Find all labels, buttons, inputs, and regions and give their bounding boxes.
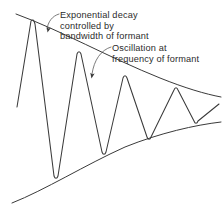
annotation-exponential-decay-line-3: bandwidth of formant (60, 31, 149, 41)
annotation-oscillation-line-1: Oscillation at (112, 43, 167, 53)
annotation-oscillation-frequency: Oscillation at frequency of formant (112, 43, 200, 64)
annotation-exponential-decay: Exponential decay controlled by bandwidt… (60, 10, 149, 41)
annotation-exponential-decay-line-1: Exponential decay (60, 10, 138, 20)
leader-line-exponential-decay (47, 14, 59, 29)
annotation-exponential-decay-line-2: controlled by (60, 21, 114, 31)
damped-oscillation-figure: Exponential decay controlled by bandwidt… (0, 0, 222, 212)
lower-envelope-curve (12, 122, 221, 203)
leader-line-oscillation (92, 47, 111, 74)
figure-canvas: Exponential decay controlled by bandwidt… (0, 0, 222, 212)
annotation-oscillation-line-2: frequency of formant (112, 54, 200, 64)
